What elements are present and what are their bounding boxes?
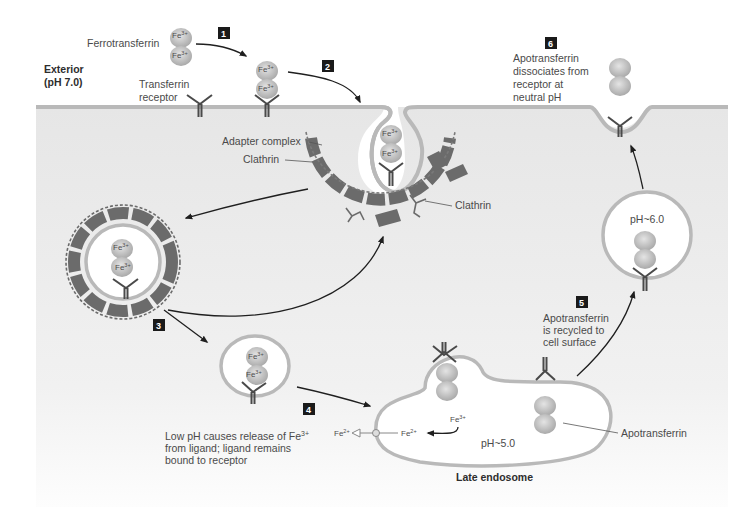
svg-text:receptor at: receptor at xyxy=(513,78,563,90)
step-3-badge: 3 xyxy=(153,319,165,331)
svg-text:bound to receptor: bound to receptor xyxy=(165,454,248,466)
svg-text:5: 5 xyxy=(579,298,584,308)
svg-text:3: 3 xyxy=(156,321,161,331)
svg-text:neutral pH: neutral pH xyxy=(513,91,561,103)
step-2-arrow xyxy=(288,72,360,102)
exterior-ph-label: (pH 7.0) xyxy=(44,76,83,88)
recycling-ph-label: pH~6.0 xyxy=(630,213,664,225)
svg-text:6: 6 xyxy=(548,39,553,49)
step-6-caption: Apotransferrin dissociates from receptor… xyxy=(513,52,589,103)
step-1-arrow xyxy=(196,44,246,56)
step-5-badge: 5 xyxy=(576,296,588,308)
transferrin-cycle-diagram: Exterior (pH 7.0) Fe3+ Fe3+ Ferrotransfe… xyxy=(0,0,754,507)
ferrotransferrin-free: Fe3+ Fe3+ xyxy=(170,28,192,66)
clathrin-free-label: Clathrin xyxy=(455,199,491,211)
svg-text:Low pH causes release of Fe3+: Low pH causes release of Fe3+ xyxy=(165,430,309,442)
transferrin-receptor-label: Transferrin xyxy=(139,78,190,90)
apotransferrin-label: Apotransferrin xyxy=(621,427,687,439)
clathrin-label: Clathrin xyxy=(243,153,279,165)
svg-text:4: 4 xyxy=(306,405,311,415)
exterior-label: Exterior xyxy=(44,63,84,75)
transferrin-receptor-label-2: receptor xyxy=(139,91,178,103)
step-4-badge: 4 xyxy=(303,403,315,415)
svg-text:2: 2 xyxy=(325,62,330,72)
step-2-badge: 2 xyxy=(322,60,334,72)
svg-text:1: 1 xyxy=(221,29,226,39)
apotransferrin-released xyxy=(609,58,631,96)
endosome-ph-label: pH~5.0 xyxy=(481,437,515,449)
svg-text:from ligand; ligand remains: from ligand; ligand remains xyxy=(165,442,291,454)
svg-text:dissociates from: dissociates from xyxy=(513,65,589,77)
step-6-badge: 6 xyxy=(545,37,557,49)
ferrotransferrin-label: Ferrotransferrin xyxy=(87,37,160,49)
adapter-complex-label: Adapter complex xyxy=(222,135,302,147)
svg-text:Apotransferrin: Apotransferrin xyxy=(513,52,579,64)
svg-text:is recycled to: is recycled to xyxy=(543,324,604,336)
step-1-badge: 1 xyxy=(218,27,230,39)
late-endosome-label: Late endosome xyxy=(456,471,533,483)
svg-text:cell surface: cell surface xyxy=(543,336,596,348)
svg-text:Apotransferrin: Apotransferrin xyxy=(543,312,609,324)
